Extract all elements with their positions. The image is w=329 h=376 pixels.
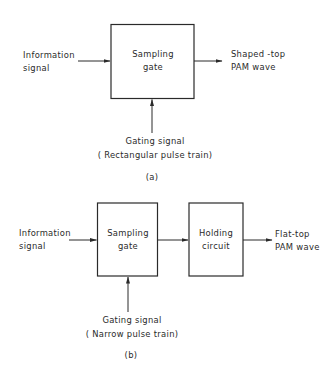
output-label-b-line1: Flat-top [275, 228, 320, 241]
gating-label-a: Gating signal ( Rectangular pulse train) [98, 134, 213, 162]
gating-label-b-line2: ( Narrow pulse train) [86, 327, 179, 341]
gating-label-a-line2: ( Rectangular pulse train) [98, 148, 213, 162]
gating-label-b-line1: Gating signal [86, 313, 179, 327]
output-label-a: Shaped -top PAM wave [231, 48, 285, 74]
sampling-gate-label-a: Sampling gate [132, 48, 174, 74]
input-label-b: Information signal [19, 227, 71, 253]
gating-label-b: Gating signal ( Narrow pulse train) [86, 313, 179, 341]
output-label-a-line1: Shaped -top [231, 48, 285, 61]
input-label-a: Information signal [23, 49, 75, 75]
gating-label-a-line1: Gating signal [98, 134, 213, 148]
sampling-gate-label-a-line2: gate [132, 61, 174, 74]
input-label-b-line2: signal [19, 240, 71, 253]
output-label-a-line2: PAM wave [231, 61, 285, 74]
input-label-b-line1: Information [19, 227, 71, 240]
sampling-gate-label-b-line1: Sampling [107, 227, 149, 240]
holding-circuit-label-line2: circuit [199, 240, 233, 253]
output-label-b: Flat-top PAM wave [275, 228, 320, 254]
sampling-gate-label-a-line1: Sampling [132, 48, 174, 61]
output-label-b-line2: PAM wave [275, 241, 320, 254]
sampling-gate-label-b: Sampling gate [107, 227, 149, 253]
input-label-a-line2: signal [23, 62, 75, 75]
diagram-a [78, 25, 222, 134]
diagram-b [69, 203, 272, 312]
sampling-gate-label-b-line2: gate [107, 240, 149, 253]
caption-a: (a) [146, 171, 159, 184]
input-label-a-line1: Information [23, 49, 75, 62]
holding-circuit-label: Holding circuit [199, 227, 233, 253]
caption-b: (b) [125, 349, 138, 362]
holding-circuit-label-line1: Holding [199, 227, 233, 240]
